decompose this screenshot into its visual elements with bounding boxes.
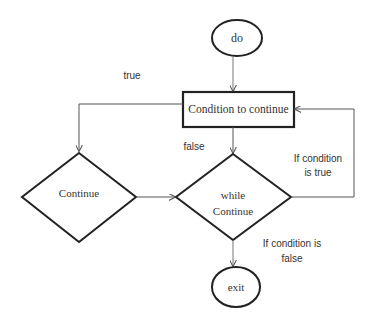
while-label-line2: Continue [213,205,253,217]
condition-label: Condition to continue [188,103,288,115]
edge-label-false: false [183,141,205,152]
continue-node: Continue [22,153,136,242]
start-label: do [231,31,243,45]
condition-node: Condition to continue [183,92,294,127]
exit-label: exit [228,281,245,293]
flowchart-canvas: do Condition to continue true false Cont… [0,0,371,323]
continue-label: Continue [59,187,99,199]
edge-label-if-true-line1: If condition [294,153,342,164]
while-label-line1: while [221,189,246,201]
while-node: while Continue [176,154,291,240]
edge-label-if-false-line2: false [281,253,303,264]
exit-node: exit [212,267,260,307]
edge-label-true: true [123,70,141,81]
edge-condition-to-continue [79,104,183,151]
edge-label-if-true-line2: is true [304,167,332,178]
edge-label-if-false-line1: If condition is [263,238,321,249]
start-node: do [212,20,262,56]
